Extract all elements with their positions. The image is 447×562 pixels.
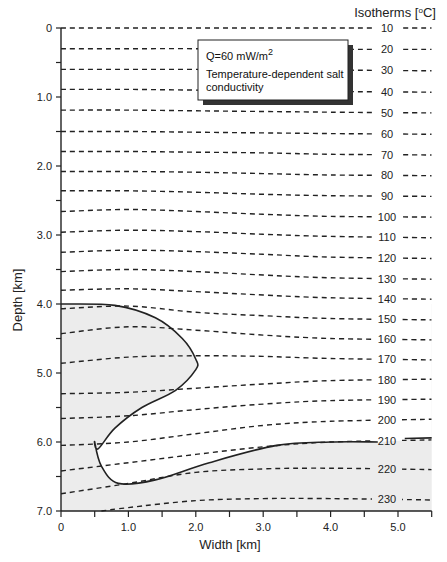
isotherm-label: 80 <box>381 169 393 181</box>
isotherm-140: 140 <box>61 289 432 305</box>
isotherm-label: 190 <box>378 394 396 406</box>
y-tick-label: 4.0 <box>37 298 52 310</box>
x-tick-label: 1.0 <box>121 521 136 533</box>
legend-heat-flow: Q=60 mW/m2 <box>206 47 273 62</box>
isotherm-100: 100 <box>61 210 432 223</box>
x-tick-label: 0 <box>58 521 64 533</box>
isotherm-120: 120 <box>61 250 432 264</box>
isotherm-label: 70 <box>381 149 393 161</box>
y-tick-label: 0 <box>46 22 52 34</box>
isotherm-label: 60 <box>381 128 393 140</box>
x-tick-label: 2.0 <box>188 521 203 533</box>
isotherm-label: 200 <box>378 414 396 426</box>
legend-box: Q=60 mW/m2 Temperature-dependent salt co… <box>198 40 353 105</box>
isotherm-label: 140 <box>378 293 396 305</box>
isotherm-70: 70 <box>61 149 432 161</box>
isotherm-header: Isotherms [oC] <box>354 5 436 20</box>
x-tick-label: 3.0 <box>256 521 271 533</box>
isotherm-label: 30 <box>381 64 393 76</box>
isotherm-label: 40 <box>381 86 393 98</box>
chart: 1020304050607080901001101201301401501601… <box>0 0 447 562</box>
isotherm-90: 90 <box>61 190 432 202</box>
isotherm-label: 120 <box>378 252 396 264</box>
legend-line3: conductivity <box>206 81 264 93</box>
y-tick-label: 2.0 <box>37 160 52 172</box>
isotherm-60: 60 <box>61 128 432 140</box>
isotherm-label: 170 <box>378 353 396 365</box>
isotherm-label: 220 <box>378 463 396 475</box>
isotherm-label: 110 <box>378 231 396 243</box>
isotherm-label: 20 <box>381 43 393 55</box>
isotherm-label: 100 <box>378 211 396 223</box>
y-tick-label: 3.0 <box>37 229 52 241</box>
isotherm-label: 90 <box>381 190 393 202</box>
x-tick-label: 4.0 <box>323 521 338 533</box>
isotherm-label: 180 <box>378 374 396 386</box>
y-tick-label: 6.0 <box>37 436 52 448</box>
x-axis-title: Width [km] <box>199 537 260 552</box>
isotherm-label: 210 <box>378 435 396 447</box>
isotherm-130: 130 <box>61 270 432 285</box>
isotherm-110: 110 <box>61 230 432 243</box>
isotherm-label: 150 <box>378 313 396 325</box>
isotherm-label: 130 <box>378 273 396 285</box>
legend-line2: Temperature-dependent salt <box>206 68 344 80</box>
sediment-shading <box>61 304 432 511</box>
y-tick-label: 1.0 <box>37 91 52 103</box>
y-tick-label: 5.0 <box>37 367 52 379</box>
isotherm-label: 50 <box>381 107 393 119</box>
isotherm-50: 50 <box>61 107 432 119</box>
y-tick-label: 7.0 <box>37 505 52 517</box>
isotherm-label: 10 <box>381 22 393 34</box>
isotherm-10: 10 <box>61 22 432 34</box>
isotherm-label: 160 <box>378 333 396 345</box>
isotherm-label: 230 <box>378 493 396 505</box>
isotherm-80: 80 <box>61 169 432 181</box>
y-axis-title: Depth [km] <box>10 269 25 332</box>
x-tick-label: 5.0 <box>390 521 405 533</box>
